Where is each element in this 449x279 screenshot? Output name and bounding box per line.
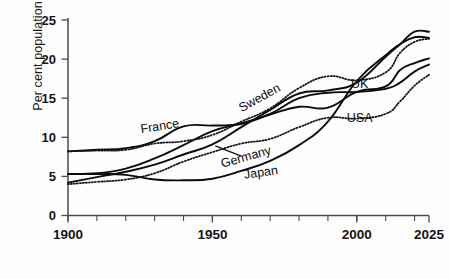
x-tick-label: 1950: [197, 227, 227, 242]
x-axis-ticks: 1900195020002025: [53, 216, 445, 243]
series-label-uk: UK: [351, 77, 369, 91]
y-tick-label: 25: [42, 13, 56, 28]
y-tick-label: 0: [49, 208, 56, 223]
line-chart-plot: 0510152025 1900195020002025 FranceSweden…: [0, 0, 449, 279]
series-label-japan: Japan: [243, 163, 279, 182]
chart-container: Per cent population over 65 0510152025 1…: [0, 0, 449, 279]
x-tick-label: 1900: [53, 227, 83, 242]
x-tick-label: 2000: [342, 227, 372, 242]
series-label-usa: USA: [347, 111, 373, 125]
series-label-france: France: [139, 116, 180, 136]
y-tick-label: 15: [42, 91, 56, 106]
x-tick-label: 2025: [414, 227, 445, 242]
y-axis-ticks: 0510152025: [42, 13, 68, 224]
y-tick-label: 10: [42, 130, 56, 145]
y-tick-label: 5: [49, 169, 56, 184]
series-label-sweden: Sweden: [236, 81, 282, 115]
y-tick-label: 20: [42, 52, 56, 67]
